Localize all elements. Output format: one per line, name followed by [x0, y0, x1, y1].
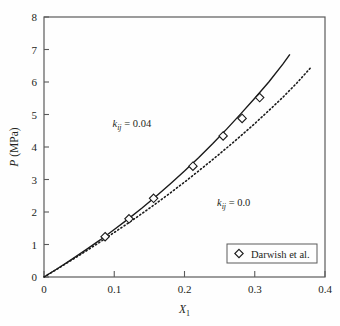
- y-tick-label-2: 2: [32, 206, 38, 218]
- x-tick-label-0: 0: [41, 283, 47, 295]
- y-tick-label-3: 3: [32, 174, 38, 186]
- figure-container: 01234567800.10.20.30.4X1P (MPa)kij = 0.0…: [0, 0, 340, 326]
- x-tick-label-1: 0.1: [107, 283, 121, 295]
- y-tick-label-6: 6: [32, 76, 38, 88]
- x-tick-label-2: 0.2: [178, 283, 192, 295]
- x-axis-title: X1: [178, 303, 190, 318]
- y-tick-label-1: 1: [32, 239, 38, 251]
- y-axis-title: P (MPa): [8, 127, 21, 167]
- plot-frame: [44, 17, 325, 277]
- x-tick-label-3: 0.3: [248, 283, 262, 295]
- y-tick-label-5: 5: [32, 109, 38, 121]
- legend-label-0: Darwish et al.: [251, 249, 310, 260]
- y-tick-label-4: 4: [32, 141, 38, 153]
- y-tick-label-7: 7: [32, 44, 38, 56]
- chart-canvas: 01234567800.10.20.30.4X1P (MPa)kij = 0.0…: [0, 0, 340, 326]
- y-tick-label-8: 8: [32, 11, 38, 23]
- y-tick-label-0: 0: [32, 271, 38, 283]
- x-tick-label-4: 0.4: [318, 283, 332, 295]
